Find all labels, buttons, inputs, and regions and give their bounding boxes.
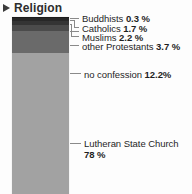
label-no-confession-value: 12.2% — [145, 69, 172, 80]
triangle-right-icon[interactable] — [3, 4, 10, 12]
label-other-protestants-name: other Protestants — [82, 41, 154, 52]
label-other-protestants-value: 3.7 % — [156, 41, 180, 52]
leader-line-catholics — [70, 21, 79, 28]
label-other-protestants: other Protestants 3.7 % — [82, 41, 180, 52]
label-lutheran-name: Lutheran State Church — [84, 138, 179, 149]
label-lutheran-value: 78 % — [84, 149, 105, 160]
label-lutheran-state-church: Lutheran State Church 78 % — [84, 138, 192, 160]
religion-chart-panel: Religion Buddhists 0.3 % Ca — [0, 0, 192, 194]
bar-segment-lutheran-state-church[interactable] — [12, 53, 69, 194]
stacked-bar — [12, 17, 69, 194]
chart-header[interactable]: Religion — [3, 1, 62, 15]
label-no-confession: no confession 12.2% — [84, 69, 171, 80]
bar-segment-other-protestants[interactable] — [12, 25, 69, 32]
page-title: Religion — [14, 2, 62, 15]
leader-line-muslims — [70, 25, 79, 37]
leader-line-other-protestants — [70, 32, 79, 46]
label-no-confession-name: no confession — [84, 69, 142, 80]
bar-segment-no-confession[interactable] — [12, 31, 69, 53]
